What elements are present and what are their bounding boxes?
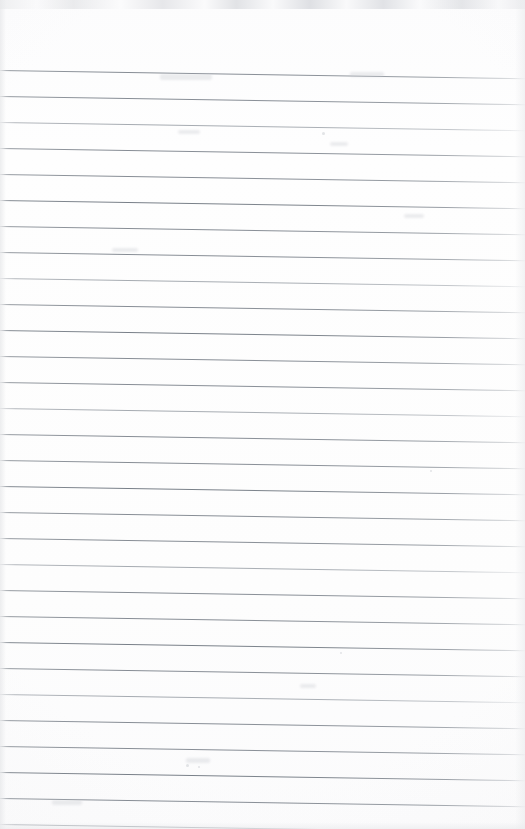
rule-line-15 [0,434,525,443]
rule-line-23 [0,642,525,651]
rule-line-24 [0,668,525,677]
rule-line-20 [0,564,525,573]
rule-line-30 [0,824,525,829]
rule-line-19 [0,538,525,547]
rule-line-17 [0,486,525,495]
rule-line-1 [0,70,525,79]
rule-line-25 [0,694,525,703]
rule-line-13 [0,382,525,391]
rule-line-12 [0,356,525,365]
ruled-lines-layer [0,0,525,829]
rule-line-18 [0,512,525,521]
rule-line-6 [0,200,525,209]
rule-line-22 [0,616,525,625]
scanned-notebook-page [0,0,525,829]
rule-line-5 [0,174,525,183]
rule-line-27 [0,746,525,755]
rule-line-2 [0,96,525,105]
rule-line-4 [0,148,525,157]
rule-line-16 [0,460,525,469]
rule-line-28 [0,772,525,781]
rule-line-7 [0,226,525,235]
rule-line-8 [0,252,525,261]
rule-line-10 [0,304,525,313]
rule-line-14 [0,408,525,417]
rule-line-29 [0,798,525,807]
rule-line-26 [0,720,525,729]
rule-line-21 [0,590,525,599]
rule-line-3 [0,122,525,131]
rule-line-9 [0,278,525,287]
rule-line-11 [0,330,525,339]
